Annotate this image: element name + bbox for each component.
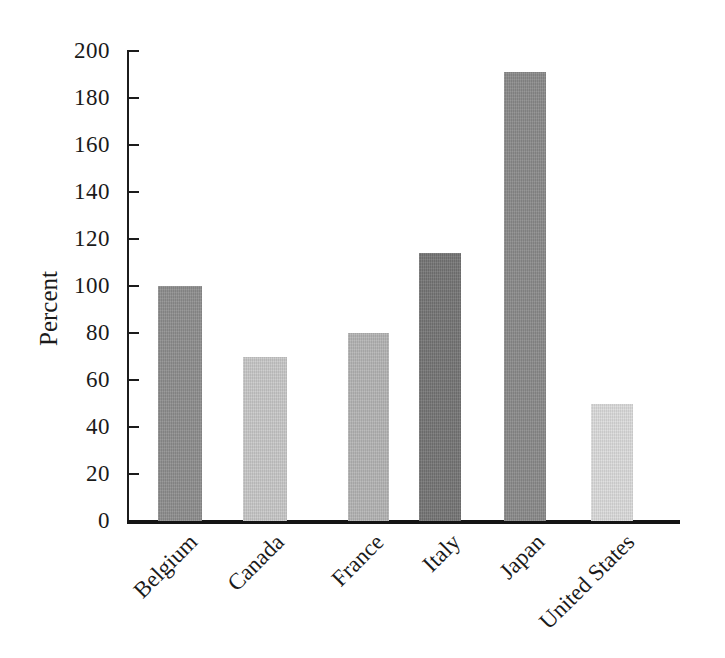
y-axis-tick-label-wrap: 120 (50, 227, 110, 250)
bar-canada (243, 357, 287, 522)
y-axis-tick-label-wrap: 100 (50, 274, 110, 297)
bar-japan (504, 72, 546, 521)
y-axis-title: Percent (36, 249, 61, 369)
y-axis-tick-label-wrap: 0 (50, 509, 110, 532)
y-axis-tick-label-wrap: 160 (50, 133, 110, 156)
bar-texture (419, 253, 461, 521)
y-axis-tick-label: 20 (50, 462, 110, 485)
bar-texture (158, 286, 202, 521)
bar-italy (419, 253, 461, 521)
y-axis-tick-label-wrap: 40 (50, 415, 110, 438)
bar-texture (243, 357, 287, 522)
x-axis-label-japan: Japan (495, 530, 549, 584)
bar-belgium (158, 286, 202, 521)
bar-france (348, 333, 389, 521)
y-axis-tick-label: 160 (50, 133, 110, 156)
x-axis-label-canada: Canada (223, 530, 289, 596)
y-axis-tick-label-wrap: 20 (50, 462, 110, 485)
y-axis-tick-label: 100 (50, 274, 110, 297)
bar-texture (348, 333, 389, 521)
y-axis-tick-label: 80 (50, 321, 110, 344)
y-axis-tick-label-wrap: 140 (50, 180, 110, 203)
x-axis-label-france: France (328, 530, 389, 591)
bar-texture (504, 72, 546, 521)
y-axis-tick-label-wrap: 60 (50, 368, 110, 391)
bar-chart-figure: Percent 200180160140120100806040200 Belg… (0, 0, 725, 658)
y-axis-tick-label-wrap: 200 (50, 39, 110, 62)
y-axis-tick-label: 0 (50, 509, 110, 532)
bar-texture (591, 404, 633, 522)
x-axis-label-italy: Italy (418, 530, 465, 577)
x-axis-label-united-states: United States (535, 530, 639, 634)
bar-united-states (591, 404, 633, 522)
y-axis-tick-label: 120 (50, 227, 110, 250)
y-axis-tick-label: 140 (50, 180, 110, 203)
y-axis-tick-label: 60 (50, 368, 110, 391)
y-axis-tick-label: 40 (50, 415, 110, 438)
y-axis-tick-label: 200 (50, 39, 110, 62)
y-axis-tick-label: 180 (50, 86, 110, 109)
x-axis-label-belgium: Belgium (129, 530, 202, 603)
plot-area (128, 51, 653, 521)
y-axis-tick-label-wrap: 180 (50, 86, 110, 109)
y-axis-tick-label-wrap: 80 (50, 321, 110, 344)
